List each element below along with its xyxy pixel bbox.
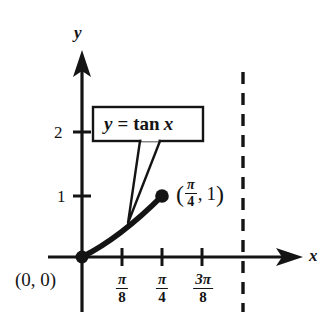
endpoint-close-paren: ) — [216, 182, 224, 206]
x-tick-numerator-3pi-over-8: 3π — [193, 272, 213, 289]
endpoint-coordinate-label: ( π 4 , 1 ) — [176, 178, 224, 209]
y-axis-label: y — [74, 24, 82, 41]
callout-x-symbol: x — [164, 113, 174, 134]
x-tick-denominator-3pi-over-8: 8 — [197, 289, 209, 305]
endpoint-y-value: 1 — [206, 184, 216, 203]
y-tick-label-1: 1 — [57, 188, 66, 205]
x-axis-label: x — [309, 247, 318, 264]
tangent-function-diagram: y x 2 1 π 8 π 4 3π 8 (0, 0) y=tanx ( π 4 — [0, 0, 329, 332]
endpoint-numerator: π — [185, 178, 197, 194]
endpoint-open-paren: ( — [176, 182, 184, 206]
x-tick-numerator-pi-over-8: π — [116, 272, 128, 289]
callout-box-text: y=tanx — [104, 114, 173, 133]
endpoint-point-marker — [155, 189, 169, 203]
callout-equals-sign: = — [117, 113, 128, 134]
callout-function-name: tan — [133, 113, 159, 134]
callout-y-symbol: y — [104, 113, 112, 134]
endpoint-denominator: 4 — [185, 194, 196, 209]
x-tick-denominator-pi-over-4: 4 — [156, 289, 168, 305]
origin-point-marker — [76, 251, 89, 264]
x-tick-label-pi-over-8: π 8 — [116, 272, 128, 305]
x-tick-label-3pi-over-8: 3π 8 — [193, 272, 213, 305]
y-tick-label-2: 2 — [54, 124, 63, 141]
x-tick-denominator-pi-over-8: 8 — [116, 289, 128, 305]
x-tick-label-pi-over-4: π 4 — [156, 272, 168, 305]
origin-label: (0, 0) — [15, 270, 56, 289]
x-tick-numerator-pi-over-4: π — [156, 272, 168, 289]
endpoint-comma: , — [198, 184, 203, 203]
tangent-curve — [82, 196, 162, 257]
